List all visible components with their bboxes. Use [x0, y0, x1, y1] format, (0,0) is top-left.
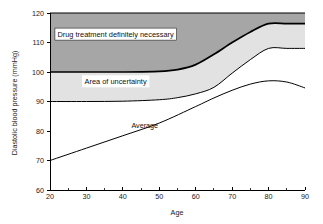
y-axis-title: Diastolic blood pressure (mmHg)	[10, 51, 19, 156]
y-tick-label: 120	[32, 9, 44, 18]
y-tick-label: 70	[36, 156, 44, 165]
x-tick-label: 30	[82, 192, 90, 201]
y-tick-label: 60	[36, 186, 44, 195]
average-label: Average	[131, 121, 158, 130]
x-tick-label: 50	[155, 192, 163, 201]
x-tick-label: 40	[119, 192, 127, 201]
x-tick-label: 70	[228, 192, 236, 201]
annotation-area-uncertainty: Area of uncertainty	[82, 75, 149, 87]
x-tick-label: 90	[301, 192, 309, 201]
area-uncertainty-label: Area of uncertainty	[85, 77, 147, 86]
x-tick-label: 60	[192, 192, 200, 201]
annotation-drug-treatment: Drug treatment definitely necessary	[55, 28, 177, 40]
y-tick-label: 80	[36, 127, 44, 136]
x-tick-label: 20	[46, 192, 54, 201]
y-tick-label: 110	[33, 38, 44, 47]
drug-treatment-label: Drug treatment definitely necessary	[57, 30, 174, 39]
annotation-average: Average	[131, 121, 158, 130]
y-tick-label: 100	[32, 68, 44, 77]
y-tick-label: 90	[36, 97, 44, 106]
x-axis-title: Age	[171, 208, 184, 217]
x-tick-label: 80	[265, 192, 273, 201]
blood-pressure-chart: 60708090100110120 2030405060708090 Age D…	[0, 0, 323, 224]
chart-container: 60708090100110120 2030405060708090 Age D…	[0, 0, 323, 224]
